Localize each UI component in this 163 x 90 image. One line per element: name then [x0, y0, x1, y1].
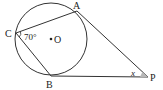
label-c: C — [5, 28, 12, 39]
geometry-diagram: A C B O P 70° x — [0, 0, 163, 90]
center-point-o — [50, 38, 53, 41]
angle-p-label: x — [130, 68, 135, 78]
tangent-pa — [77, 11, 148, 77]
angle-p-marker — [140, 72, 148, 77]
label-p: P — [150, 72, 156, 83]
angle-c-label: 70° — [24, 32, 37, 42]
label-a: A — [73, 0, 81, 11]
label-o: O — [54, 34, 61, 45]
label-b: B — [46, 79, 53, 90]
